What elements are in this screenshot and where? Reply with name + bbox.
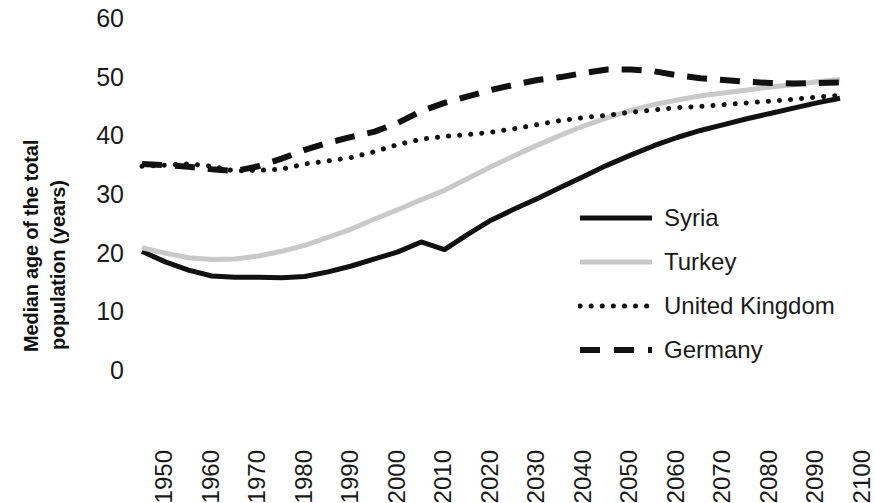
legend-swatch-icon [578, 209, 654, 227]
chart-legend: SyriaTurkeyUnited KingdomGermany [578, 196, 857, 372]
legend-swatch-icon [578, 341, 654, 359]
x-tick-label: 2000 [385, 450, 409, 503]
x-tick-label: 2060 [664, 450, 688, 503]
x-tick-label: 1990 [338, 450, 362, 503]
legend-swatch-icon [578, 253, 654, 271]
legend-label: Syria [664, 206, 719, 230]
x-tick-label: 2080 [757, 450, 781, 503]
x-tick-label: 2010 [431, 450, 455, 503]
legend-swatch-icon [578, 297, 654, 315]
legend-label: United Kingdom [664, 294, 835, 318]
x-tick-label: 2100 [850, 450, 874, 503]
x-tick-label: 1950 [152, 450, 176, 503]
legend-label: Germany [664, 338, 763, 362]
legend-item-united-kingdom[interactable]: United Kingdom [578, 284, 857, 328]
x-tick-label: 1980 [292, 450, 316, 503]
x-tick-label: 2050 [617, 450, 641, 503]
x-tick-label: 2070 [710, 450, 734, 503]
x-tick-label: 2040 [571, 450, 595, 503]
legend-item-germany[interactable]: Germany [578, 328, 857, 372]
legend-item-syria[interactable]: Syria [578, 196, 857, 240]
x-tick-label: 1960 [199, 450, 223, 503]
x-tick-label: 1970 [245, 450, 269, 503]
legend-label: Turkey [664, 250, 736, 274]
x-tick-label: 2090 [803, 450, 827, 503]
series-line-united-kingdom [142, 95, 840, 171]
legend-item-turkey[interactable]: Turkey [578, 240, 857, 284]
x-tick-label: 2030 [524, 450, 548, 503]
x-tick-label: 2020 [478, 450, 502, 503]
